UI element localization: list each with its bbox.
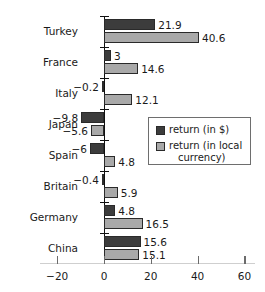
bar-value-italy-local: 12.1 bbox=[135, 94, 158, 106]
bar-chart: Turkey21.940.6France314.6Italy−0.212.1Ja… bbox=[0, 0, 265, 292]
y-axis-tick bbox=[100, 109, 109, 110]
legend-label-dollar: return (in $) bbox=[169, 124, 257, 136]
bar-germany-local bbox=[104, 218, 143, 229]
category-row: China15.615.1 bbox=[0, 233, 265, 264]
y-axis-tick bbox=[100, 202, 109, 203]
category-row: Britain−0.45.9 bbox=[0, 171, 265, 202]
bar-value-germany-local: 16.5 bbox=[146, 218, 169, 230]
bar-italy-local bbox=[104, 94, 132, 105]
category-label-china: China bbox=[0, 233, 78, 264]
x-axis-tick bbox=[104, 256, 105, 264]
category-label-italy: Italy bbox=[0, 78, 78, 109]
x-axis-tick bbox=[151, 256, 152, 264]
legend-label-local-line2: currency) bbox=[169, 152, 257, 164]
category-label-spain: Spain bbox=[0, 140, 78, 171]
bar-value-france-dollar: 3 bbox=[114, 50, 121, 62]
category-row: Italy−0.212.1 bbox=[0, 78, 265, 109]
x-axis-tick-label: 40 bbox=[178, 270, 218, 282]
y-axis-tick bbox=[100, 171, 109, 172]
y-axis-tick bbox=[100, 47, 109, 48]
category-row: France314.6 bbox=[0, 47, 265, 78]
bar-value-france-local: 14.6 bbox=[141, 63, 164, 75]
bar-britain-local bbox=[104, 187, 118, 198]
bar-value-turkey-local: 40.6 bbox=[202, 32, 225, 44]
bar-value-italy-dollar: −0.2 bbox=[73, 81, 99, 93]
category-label-turkey: Turkey bbox=[0, 16, 78, 47]
legend-swatch-local-icon bbox=[156, 142, 165, 151]
bar-value-spain-local: 4.8 bbox=[118, 156, 135, 168]
bar-japan-local bbox=[91, 125, 104, 136]
bar-china-local bbox=[104, 249, 139, 260]
plot-area: Turkey21.940.6France314.6Italy−0.212.1Ja… bbox=[0, 0, 265, 292]
bar-value-britain-local: 5.9 bbox=[121, 187, 138, 199]
x-axis-tick-label: 60 bbox=[224, 270, 264, 282]
y-axis-tick bbox=[100, 16, 109, 17]
bar-value-japan-local: −5.6 bbox=[62, 125, 88, 137]
x-axis-tick-label: 0 bbox=[84, 270, 124, 282]
bar-china-dollar bbox=[104, 236, 141, 247]
category-row: Turkey21.940.6 bbox=[0, 16, 265, 47]
bar-spain-dollar bbox=[90, 143, 104, 154]
category-label-france: France bbox=[0, 47, 78, 78]
bar-value-china-local: 15.1 bbox=[142, 249, 165, 261]
bar-germany-dollar bbox=[104, 205, 115, 216]
bar-japan-dollar bbox=[81, 112, 104, 123]
category-label-britain: Britain bbox=[0, 171, 78, 202]
bar-italy-dollar bbox=[102, 81, 104, 92]
bar-value-japan-dollar: −9.8 bbox=[53, 112, 79, 124]
bar-value-spain-dollar: −6 bbox=[71, 143, 86, 155]
y-axis-tick bbox=[100, 233, 109, 234]
bar-france-local bbox=[104, 63, 138, 74]
x-axis-tick-label: −20 bbox=[37, 270, 77, 282]
bar-spain-local bbox=[104, 156, 115, 167]
bar-france-dollar bbox=[104, 50, 111, 61]
x-axis-tick bbox=[244, 256, 245, 264]
legend: return (in $) return (in localcurrency) bbox=[148, 117, 251, 165]
bar-turkey-local bbox=[104, 32, 199, 43]
legend-swatch-dollar-icon bbox=[156, 126, 165, 135]
bar-britain-dollar bbox=[102, 174, 104, 185]
legend-label-local-line1: return (in local bbox=[169, 140, 242, 151]
y-axis-tick bbox=[100, 78, 109, 79]
bar-value-germany-dollar: 4.8 bbox=[118, 205, 135, 217]
bar-value-china-dollar: 15.6 bbox=[144, 236, 167, 248]
category-label-germany: Germany bbox=[0, 202, 78, 233]
bar-turkey-dollar bbox=[104, 19, 155, 30]
x-axis-tick bbox=[198, 256, 199, 264]
x-axis-tick-label: 20 bbox=[131, 270, 171, 282]
bar-value-turkey-dollar: 21.9 bbox=[158, 19, 181, 31]
legend-label-local: return (in localcurrency) bbox=[169, 140, 257, 163]
category-row: Germany4.816.5 bbox=[0, 202, 265, 233]
x-axis-tick bbox=[57, 256, 58, 264]
bar-value-britain-dollar: −0.4 bbox=[73, 174, 99, 186]
y-axis-tick bbox=[100, 140, 109, 141]
